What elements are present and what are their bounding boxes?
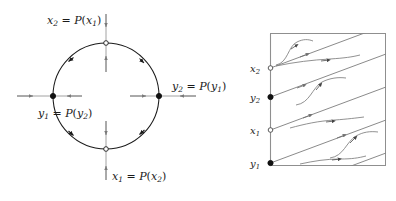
figure-background (0, 0, 396, 201)
axis-marker-x2-open (268, 66, 273, 71)
marker-left-filled (50, 93, 55, 98)
marker-top-open (104, 41, 109, 46)
figure-canvas: x2 = P(x1) x1 = P(x2) y1 = P(y2) y2 = P(… (0, 0, 396, 201)
marker-right-filled (156, 93, 161, 98)
axis-marker-x1-open (268, 128, 273, 133)
axis-marker-y2-filled (268, 94, 273, 99)
marker-bottom-open (104, 147, 109, 152)
poincare-map-figure: x2 = P(x1) x1 = P(x2) y1 = P(y2) y2 = P(… (0, 0, 396, 201)
axis-marker-y1-filled (268, 160, 273, 165)
